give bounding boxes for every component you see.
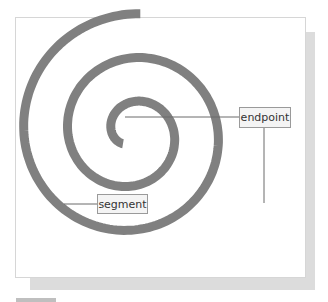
figure-caption-fragment <box>16 298 56 302</box>
endpoint-label: endpoint <box>239 107 291 128</box>
leader-lines <box>64 117 264 204</box>
spiral-diagram <box>0 0 328 302</box>
segment-label: segment <box>97 194 148 214</box>
